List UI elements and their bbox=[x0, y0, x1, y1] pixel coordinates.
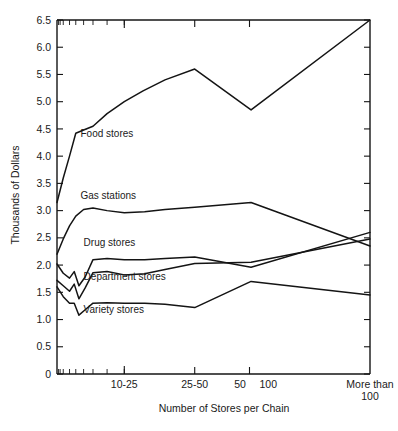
line-chart: 00.51.01.52.02.53.03.54.04.55.05.56.06.5… bbox=[0, 0, 398, 431]
y-axis-title: Thousands of Dollars bbox=[9, 145, 21, 244]
x-tick-label-2: 50 bbox=[234, 378, 246, 390]
y-tick-label-10: 5.0 bbox=[36, 95, 51, 107]
y-tick-label-11: 5.5 bbox=[36, 68, 51, 80]
y-tick-label-2: 1.0 bbox=[36, 313, 51, 325]
series-label-gas-stations: Gas stations bbox=[80, 190, 136, 201]
series-label-food-stores: Food stores bbox=[80, 128, 133, 139]
y-tick-label-0: 0 bbox=[45, 368, 51, 380]
y-tick-label-3: 1.5 bbox=[36, 286, 51, 298]
y-tick-label-7: 3.5 bbox=[36, 177, 51, 189]
y-tick-label-9: 4.5 bbox=[36, 123, 51, 135]
series-line-food-stores bbox=[57, 20, 370, 202]
series-inline-labels: Food storesGas stationsDrug storesDepart… bbox=[80, 128, 165, 315]
y-tick-label-8: 4.0 bbox=[36, 150, 51, 162]
series-label-department-stores: Department stores bbox=[84, 271, 166, 282]
series-label-drug-stores: Drug stores bbox=[84, 237, 136, 248]
x-tick-label-1: 25-50 bbox=[181, 378, 208, 390]
y-tick-label-12: 6.0 bbox=[36, 41, 51, 53]
x-tick-label-more-than-line2: 100 bbox=[361, 390, 379, 402]
y-axis-tick-labels: 00.51.01.52.02.53.03.54.04.55.05.56.06.5 bbox=[36, 14, 51, 380]
y-tick-label-4: 2.0 bbox=[36, 259, 51, 271]
x-tick-label-more-than-line1: More than bbox=[346, 378, 393, 390]
x-axis-title: Number of Stores per Chain bbox=[159, 402, 290, 414]
y-tick-label-5: 2.5 bbox=[36, 231, 51, 243]
y-tick-label-6: 3.0 bbox=[36, 204, 51, 216]
chart-canvas: 00.51.01.52.02.53.03.54.04.55.05.56.06.5… bbox=[0, 0, 398, 431]
series-label-variety-stores: Variety stores bbox=[84, 304, 144, 315]
y-tick-label-1: 0.5 bbox=[36, 340, 51, 352]
x-tick-label-3: 100 bbox=[260, 378, 278, 390]
x-tick-label-0: 10-25 bbox=[111, 378, 138, 390]
x-axis-tick-labels: 10-2525-5050100More than100 bbox=[111, 378, 394, 402]
y-tick-label-13: 6.5 bbox=[36, 14, 51, 26]
